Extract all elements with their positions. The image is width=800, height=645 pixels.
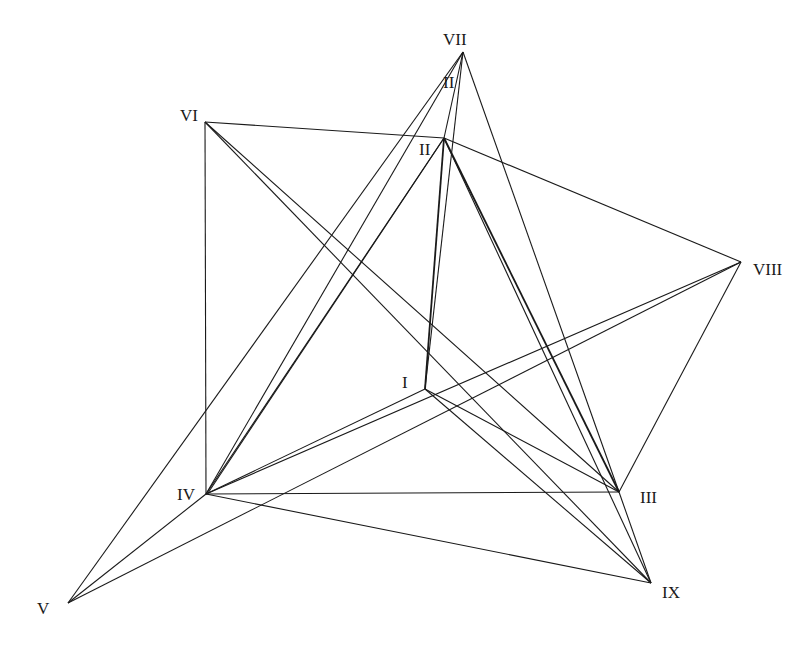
- extra-label: II: [443, 73, 455, 92]
- edge-ii-viii: [444, 138, 741, 262]
- vertex-label-iv: IV: [177, 485, 196, 504]
- edge-iv-iii: [206, 492, 619, 494]
- edge-vi-iv: [205, 122, 206, 494]
- edge-viii-iii: [619, 262, 741, 492]
- edge-i-iii: [425, 389, 619, 492]
- edge-group: [68, 52, 741, 603]
- geometric-diagram: IIIIIIIVVVIVIIVIIIIXII: [0, 0, 800, 645]
- edge-vii-iii: [463, 52, 619, 492]
- edge-i-iv: [206, 389, 425, 494]
- vertex-label-group: IIIIIIIVVVIVIIVIIIIXII: [37, 30, 783, 618]
- vertex-label-iii: III: [640, 488, 657, 507]
- vertex-label-vii: VII: [443, 30, 467, 49]
- edge-vi-iii: [205, 122, 619, 492]
- vertex-label-i: I: [402, 373, 408, 392]
- vertex-label-viii: VIII: [753, 260, 783, 279]
- edge-viii-iv: [206, 262, 741, 494]
- vertex-label-v: V: [37, 599, 50, 618]
- edge-ii-iv2: [208, 138, 444, 493]
- vertex-label-ii: II: [419, 140, 431, 159]
- edge-ii-iii: [444, 138, 619, 492]
- edge-ii-i: [425, 138, 444, 389]
- edge-vii-i: [425, 52, 463, 389]
- vertex-label-ix: IX: [662, 583, 680, 602]
- edge-iv-ix: [206, 494, 651, 583]
- edge-vii-iv: [206, 52, 463, 494]
- edge-iv-v: [68, 494, 206, 603]
- edge-vi-ii: [205, 122, 444, 138]
- vertex-label-vi: VI: [180, 106, 198, 125]
